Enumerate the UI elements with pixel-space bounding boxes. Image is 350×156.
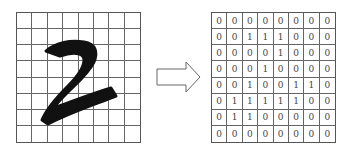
matrix-cell: 0 (320, 29, 335, 45)
binary-matrix-grid: 0000000000111000000010000001000000100110… (211, 12, 336, 143)
grid-cell (109, 13, 124, 29)
matrix-cell: 0 (320, 78, 335, 94)
grid-cell (17, 126, 32, 142)
grid-cell (94, 45, 109, 61)
matrix-cell: 0 (320, 45, 335, 61)
grid-cell (79, 78, 94, 94)
matrix-cell: 1 (274, 29, 289, 45)
grid-cell (17, 61, 32, 77)
grid-cell (48, 61, 63, 77)
grid-cell (79, 94, 94, 110)
grid-cell (79, 29, 94, 45)
grid-cell (125, 61, 140, 77)
matrix-cell: 0 (304, 110, 319, 126)
matrix-cell: 0 (212, 110, 227, 126)
matrix-cell: 1 (258, 29, 273, 45)
grid-cell (79, 126, 94, 142)
grid-cell (94, 61, 109, 77)
matrix-cell: 0 (304, 94, 319, 110)
grid-cell (32, 13, 47, 29)
matrix-cell: 0 (258, 13, 273, 29)
matrix-cell: 0 (258, 110, 273, 126)
grid-cell (32, 126, 47, 142)
matrix-cell: 0 (258, 78, 273, 94)
matrix-cell: 1 (243, 78, 258, 94)
grid-cell (125, 13, 140, 29)
grid-cell (63, 78, 78, 94)
right-arrow-icon (156, 61, 202, 93)
grid-cell (48, 110, 63, 126)
matrix-cell: 0 (320, 126, 335, 142)
matrix-cell: 0 (320, 110, 335, 126)
matrix-cell: 0 (304, 29, 319, 45)
matrix-cell: 0 (274, 78, 289, 94)
grid-cell (63, 94, 78, 110)
grid-cell (94, 110, 109, 126)
matrix-cell: 1 (304, 78, 319, 94)
grid-cell (17, 78, 32, 94)
matrix-cell: 0 (227, 126, 242, 142)
grid-cell (32, 78, 47, 94)
matrix-cell: 0 (212, 61, 227, 77)
grid-cell (94, 13, 109, 29)
matrix-cell: 0 (243, 13, 258, 29)
matrix-cell: 0 (212, 45, 227, 61)
matrix-cell: 1 (243, 110, 258, 126)
grid-cell (48, 78, 63, 94)
matrix-cell: 0 (227, 61, 242, 77)
matrix-cell: 0 (289, 61, 304, 77)
matrix-cell: 0 (304, 126, 319, 142)
matrix-cell: 0 (227, 45, 242, 61)
grid-cell (109, 126, 124, 142)
grid-cell (63, 29, 78, 45)
matrix-cell: 1 (258, 61, 273, 77)
matrix-cell: 0 (227, 29, 242, 45)
grid-cell (79, 110, 94, 126)
matrix-cell: 1 (289, 94, 304, 110)
matrix-cell: 0 (289, 29, 304, 45)
matrix-cell: 0 (243, 126, 258, 142)
grid-cell (94, 29, 109, 45)
matrix-cell: 0 (212, 94, 227, 110)
grid-cell (125, 45, 140, 61)
matrix-cell: 0 (243, 61, 258, 77)
grid-cell (109, 61, 124, 77)
matrix-cell: 1 (227, 94, 242, 110)
grid-cell (125, 78, 140, 94)
grid-cell (94, 94, 109, 110)
matrix-cell: 0 (320, 13, 335, 29)
matrix-cell: 0 (258, 126, 273, 142)
grid-cell (79, 45, 94, 61)
grid-cell (94, 126, 109, 142)
matrix-cell: 1 (274, 94, 289, 110)
matrix-cell: 0 (274, 13, 289, 29)
grid-cell (109, 29, 124, 45)
matrix-cell: 0 (289, 45, 304, 61)
matrix-cell: 1 (289, 78, 304, 94)
matrix-cell: 0 (212, 78, 227, 94)
grid-cell (48, 45, 63, 61)
grid-cell (63, 61, 78, 77)
grid-cell (109, 45, 124, 61)
grid-cell (109, 94, 124, 110)
grid-cell (17, 94, 32, 110)
matrix-cell: 0 (243, 45, 258, 61)
matrix-cell: 0 (289, 126, 304, 142)
matrix-cell: 1 (243, 29, 258, 45)
grid-cell (94, 78, 109, 94)
grid-cell (17, 13, 32, 29)
matrix-cell: 0 (274, 126, 289, 142)
matrix-cell: 0 (304, 13, 319, 29)
matrix-cell: 0 (320, 61, 335, 77)
matrix-cell: 0 (274, 110, 289, 126)
grid-cell (109, 110, 124, 126)
matrix-cell: 0 (227, 78, 242, 94)
grid-cell (32, 110, 47, 126)
grid-cell (79, 13, 94, 29)
grid-cell (32, 45, 47, 61)
grid-cell (32, 61, 47, 77)
matrix-cell: 1 (258, 94, 273, 110)
grid-cell (48, 126, 63, 142)
matrix-cell: 0 (304, 45, 319, 61)
grid-cell (63, 13, 78, 29)
